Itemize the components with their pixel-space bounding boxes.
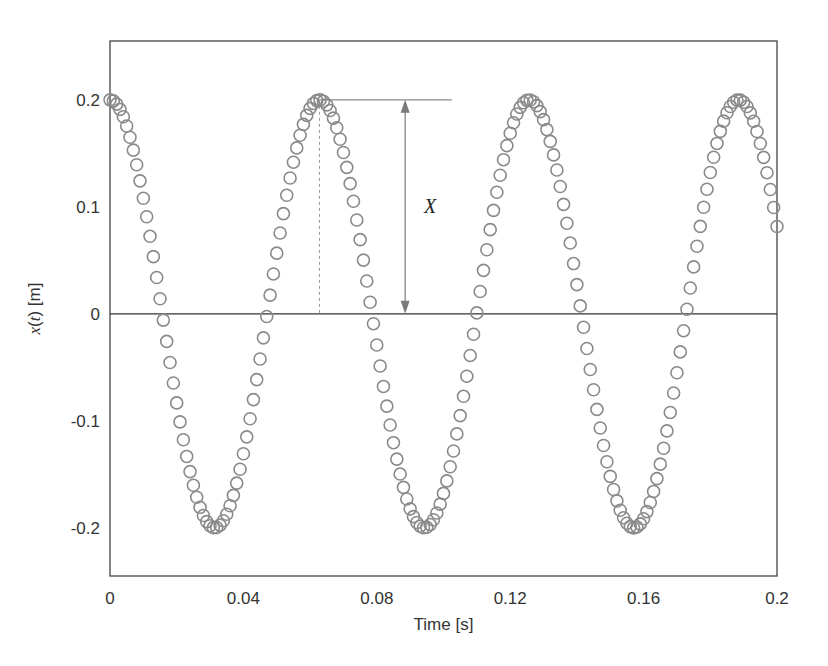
data-point-marker bbox=[554, 181, 566, 193]
data-point-marker bbox=[588, 384, 600, 396]
data-point-marker bbox=[371, 339, 383, 351]
data-point-marker bbox=[484, 224, 496, 236]
data-point-marker bbox=[337, 147, 349, 159]
data-point-marker bbox=[698, 201, 710, 213]
data-point-marker bbox=[261, 311, 273, 323]
data-point-marker bbox=[568, 258, 580, 270]
data-point-marker bbox=[144, 230, 156, 242]
x-tick-label: 0.08 bbox=[360, 589, 393, 608]
data-point-marker bbox=[284, 172, 296, 184]
data-point-marker bbox=[564, 237, 576, 249]
data-point-marker bbox=[468, 328, 480, 340]
data-point-marker bbox=[147, 251, 159, 263]
data-point-marker bbox=[177, 434, 189, 446]
data-point-marker bbox=[287, 156, 299, 168]
data-point-marker bbox=[608, 484, 620, 496]
data-point-marker bbox=[474, 286, 486, 298]
x-tick-label: 0.04 bbox=[227, 589, 260, 608]
x-tick-label: 0.2 bbox=[765, 589, 789, 608]
data-point-marker bbox=[344, 178, 356, 190]
data-point-marker bbox=[247, 394, 259, 406]
data-point-marker bbox=[267, 268, 279, 280]
plot-frame bbox=[110, 41, 777, 576]
data-point-marker bbox=[498, 154, 510, 166]
data-point-marker bbox=[501, 140, 513, 152]
data-point-marker bbox=[674, 346, 686, 358]
data-point-marker bbox=[581, 343, 593, 355]
y-tick-label: -0.2 bbox=[71, 519, 100, 538]
data-point-marker bbox=[764, 183, 776, 195]
data-point-marker bbox=[448, 445, 460, 457]
data-point-marker bbox=[751, 125, 763, 137]
data-point-marker bbox=[241, 431, 253, 443]
data-point-marker bbox=[391, 453, 403, 465]
data-point-marker bbox=[558, 198, 570, 210]
data-point-marker bbox=[488, 204, 500, 216]
data-point-marker bbox=[151, 271, 163, 283]
data-point-marker bbox=[551, 164, 563, 176]
arrow-up-icon bbox=[401, 100, 410, 113]
data-point-marker bbox=[374, 360, 386, 372]
data-point-marker bbox=[364, 296, 376, 308]
data-point-marker bbox=[367, 318, 379, 330]
data-point-marker bbox=[481, 244, 493, 256]
x-tick-label: 0.12 bbox=[494, 589, 527, 608]
data-point-marker bbox=[654, 458, 666, 470]
data-point-marker bbox=[548, 149, 560, 161]
data-point-marker bbox=[754, 138, 766, 150]
data-point-marker bbox=[494, 169, 506, 181]
y-tick-label: -0.1 bbox=[71, 412, 100, 431]
data-point-marker bbox=[281, 189, 293, 201]
data-point-marker bbox=[341, 161, 353, 173]
data-point-marker bbox=[701, 183, 713, 195]
data-point-marker bbox=[444, 461, 456, 473]
data-point-marker bbox=[131, 159, 143, 171]
data-point-marker bbox=[768, 201, 780, 213]
data-point-marker bbox=[441, 475, 453, 487]
data-point-marker bbox=[578, 321, 590, 333]
data-point-marker bbox=[271, 247, 283, 259]
data-point-marker bbox=[664, 406, 676, 418]
data-point-marker bbox=[601, 456, 613, 468]
data-point-marker bbox=[231, 477, 243, 489]
data-point-marker bbox=[438, 487, 450, 499]
data-point-marker bbox=[598, 440, 610, 452]
data-point-marker bbox=[458, 390, 470, 402]
data-point-marker bbox=[691, 240, 703, 252]
data-point-marker bbox=[671, 367, 683, 379]
data-point-marker bbox=[604, 470, 616, 482]
data-point-marker bbox=[124, 131, 136, 143]
x-tick-label: 0.16 bbox=[627, 589, 660, 608]
data-point-marker bbox=[397, 481, 409, 493]
data-point-marker bbox=[387, 437, 399, 449]
data-point-marker bbox=[658, 442, 670, 454]
data-point-marker bbox=[164, 356, 176, 368]
data-point-marker bbox=[171, 397, 183, 409]
data-point-marker bbox=[234, 463, 246, 475]
data-point-marker bbox=[347, 195, 359, 207]
data-point-marker bbox=[648, 485, 660, 497]
data-point-marker bbox=[678, 325, 690, 337]
data-point-marker bbox=[478, 264, 490, 276]
data-point-marker bbox=[591, 403, 603, 415]
data-point-marker bbox=[354, 234, 366, 246]
data-point-marker bbox=[161, 335, 173, 347]
data-point-marker bbox=[684, 282, 696, 294]
x-tick-label: 0 bbox=[105, 589, 114, 608]
y-tick-label: 0.2 bbox=[76, 91, 100, 110]
data-point-marker bbox=[571, 279, 583, 291]
data-point-marker bbox=[157, 314, 169, 326]
data-point-marker bbox=[274, 227, 286, 239]
data-point-marker bbox=[187, 479, 199, 491]
y-tick-label: 0 bbox=[91, 305, 100, 324]
data-point-marker bbox=[704, 167, 716, 179]
data-point-marker bbox=[544, 135, 556, 147]
data-point-marker bbox=[134, 175, 146, 187]
data-point-marker bbox=[167, 377, 179, 389]
data-point-marker bbox=[377, 380, 389, 392]
data-point-marker bbox=[584, 363, 596, 375]
data-point-marker bbox=[694, 220, 706, 232]
arrow-down-icon bbox=[401, 301, 410, 314]
data-point-marker bbox=[384, 419, 396, 431]
data-point-marker bbox=[357, 254, 369, 266]
